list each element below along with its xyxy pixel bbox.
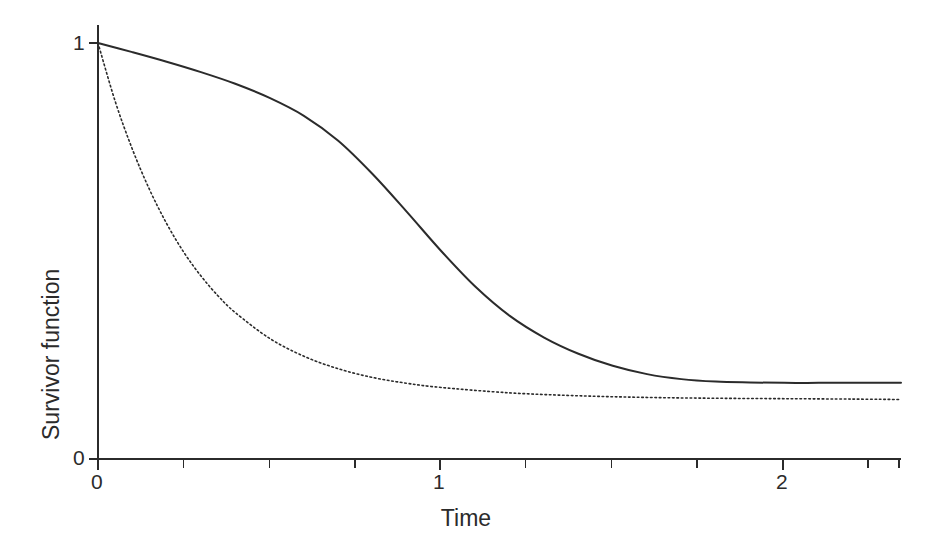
series-line-solid bbox=[98, 43, 901, 383]
x-axis-tick-label-0: 0 bbox=[91, 470, 103, 494]
x-axis-tick-label-2: 2 bbox=[776, 470, 788, 494]
y-axis-tick-label-1: 1 bbox=[73, 31, 85, 55]
y-axis-title: Survivor function bbox=[38, 40, 65, 440]
survivor-function-figure: 1 0 0 1 2 Time Survivor function bbox=[0, 0, 932, 560]
plot-canvas bbox=[0, 0, 932, 560]
x-axis-title: Time bbox=[0, 505, 932, 532]
x-axis-tick-label-1: 1 bbox=[433, 470, 445, 494]
series-line-dotted bbox=[98, 43, 901, 400]
x-minor-ticks bbox=[184, 459, 899, 468]
y-axis-tick-label-0: 0 bbox=[73, 446, 85, 470]
